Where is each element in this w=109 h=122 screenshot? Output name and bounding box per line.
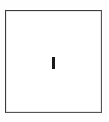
text-input-field[interactable]: [5, 10, 102, 113]
text-caret-icon: [52, 57, 55, 69]
text-field-content-area[interactable]: [6, 11, 101, 112]
page-canvas: [0, 0, 109, 122]
